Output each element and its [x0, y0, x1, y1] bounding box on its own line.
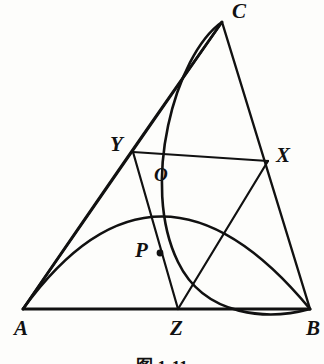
geometry-figure: A B C X Y Z O P 图 1-11	[0, 0, 324, 364]
label-a: A	[14, 318, 28, 339]
segment-yx	[133, 152, 268, 161]
label-x: X	[276, 145, 290, 166]
label-z: Z	[170, 318, 183, 339]
point-p-marker	[157, 250, 164, 257]
label-y: Y	[110, 134, 123, 155]
label-p: P	[135, 240, 148, 261]
figure-caption: 图 1-11	[0, 352, 324, 364]
label-c: C	[232, 1, 246, 22]
label-o: O	[154, 165, 168, 184]
segment-xz	[178, 161, 268, 309]
label-b: B	[306, 318, 320, 339]
arc-a-to-c	[23, 22, 222, 309]
